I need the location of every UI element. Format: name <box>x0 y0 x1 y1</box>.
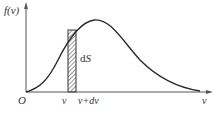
distribution-curve <box>26 20 200 92</box>
y-axis-label: f(v) <box>4 4 20 17</box>
x-axis-label: v <box>202 95 207 106</box>
area-label-s: S <box>86 52 92 64</box>
origin-label: O <box>18 94 26 106</box>
area-label: dS <box>80 52 92 64</box>
x-axis-arrow-icon <box>206 90 213 94</box>
strip-left-label: v <box>62 95 67 106</box>
y-axis-arrow-icon <box>24 2 28 9</box>
strip-right-label: v+dv <box>78 95 99 106</box>
distribution-diagram: f(v) O v v+dv v dS <box>0 0 224 115</box>
